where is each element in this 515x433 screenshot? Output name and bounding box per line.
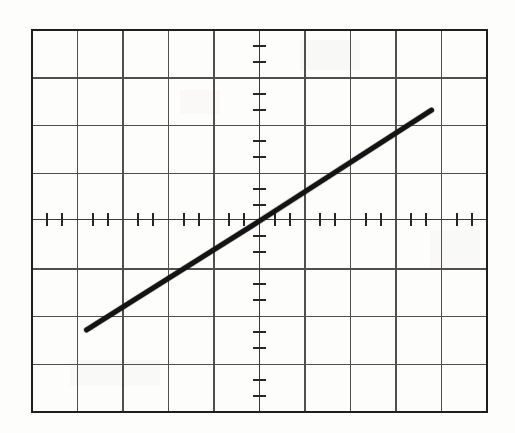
graph-canvas [0, 0, 515, 433]
graph-figure [0, 0, 515, 433]
graph-page [0, 0, 515, 433]
